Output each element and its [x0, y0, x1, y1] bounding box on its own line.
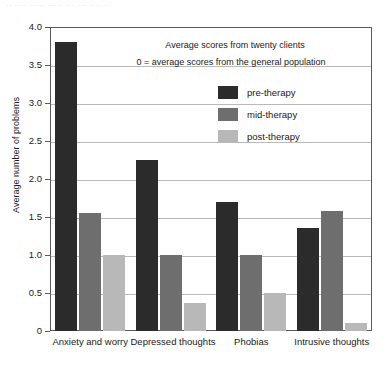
x-tick-label: Phobias: [211, 336, 292, 347]
bar: [136, 160, 158, 331]
x-tick-label: Depressed thoughts: [131, 336, 212, 347]
y-tick-mark: [45, 331, 50, 332]
bar: [184, 303, 206, 331]
y-tick-label: 1.0: [2, 250, 42, 260]
bar-chart: Average number of problems 4.03.53.02.52…: [0, 0, 392, 366]
annotation-general-population: 0 = average scores from the general popu…: [100, 57, 362, 67]
y-tick-label: 0.5: [2, 288, 42, 298]
y-tick-label: 1.5: [2, 212, 42, 222]
y-tick-label: 2.5: [2, 136, 42, 146]
bar: [55, 42, 77, 331]
bar: [103, 255, 125, 331]
legend-item: post-therapy: [218, 128, 300, 144]
legend-label: mid-therapy: [247, 109, 297, 120]
y-tick-label: 3.5: [2, 60, 42, 70]
bar: [345, 323, 367, 331]
bar: [240, 255, 262, 331]
legend-label: pre-therapy: [247, 87, 296, 98]
bar: [160, 255, 182, 331]
legend-label: post-therapy: [247, 131, 300, 142]
bar: [321, 211, 343, 331]
bars-layer: [50, 27, 372, 331]
x-tick-label: Intrusive thoughts: [292, 336, 373, 347]
annotation-average-scores: Average scores from twenty clients: [110, 40, 360, 50]
y-tick-label: 3.0: [2, 98, 42, 108]
legend-item: mid-therapy: [218, 106, 300, 122]
x-tick-label: Anxiety and worry: [50, 336, 131, 347]
y-tick-label: 2.0: [2, 174, 42, 184]
y-tick-label: 4.0: [2, 22, 42, 32]
bar: [297, 228, 319, 331]
legend: pre-therapymid-therapypost-therapy: [218, 84, 300, 150]
bar: [79, 213, 101, 331]
legend-swatch: [218, 86, 238, 99]
legend-item: pre-therapy: [218, 84, 300, 100]
legend-swatch: [218, 108, 238, 121]
y-axis-label: Average number of problems: [11, 45, 21, 265]
bar: [216, 202, 238, 331]
legend-swatch: [218, 130, 238, 143]
y-tick-label: 0: [2, 326, 42, 336]
bar: [264, 293, 286, 331]
